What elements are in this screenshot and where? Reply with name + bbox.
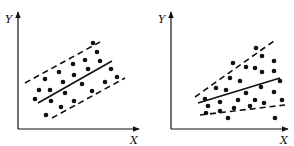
figure-canvas: Y X Y X bbox=[0, 0, 294, 146]
data-point bbox=[260, 54, 265, 59]
data-point bbox=[226, 116, 231, 121]
data-point bbox=[90, 89, 95, 94]
data-point bbox=[218, 100, 223, 105]
data-point bbox=[244, 91, 249, 96]
data-point bbox=[272, 90, 277, 95]
data-point bbox=[278, 79, 283, 84]
data-point bbox=[232, 106, 237, 111]
data-point bbox=[253, 98, 258, 103]
data-point bbox=[254, 46, 259, 51]
data-point bbox=[33, 97, 38, 102]
data-point bbox=[57, 70, 62, 75]
data-point bbox=[80, 82, 85, 87]
data-point bbox=[253, 66, 258, 71]
data-point bbox=[272, 69, 277, 74]
data-point bbox=[72, 73, 77, 78]
data-point bbox=[98, 59, 103, 64]
data-point bbox=[44, 113, 49, 118]
data-point bbox=[43, 77, 48, 82]
x-axis-label: X bbox=[279, 134, 289, 146]
data-point bbox=[259, 85, 264, 90]
data-points bbox=[33, 41, 120, 118]
data-point bbox=[231, 61, 236, 66]
data-point bbox=[206, 104, 211, 109]
data-point bbox=[280, 98, 285, 103]
data-point bbox=[236, 98, 241, 103]
data-point bbox=[224, 88, 229, 93]
data-point bbox=[260, 70, 265, 75]
data-point bbox=[262, 101, 267, 106]
data-point bbox=[272, 59, 277, 64]
data-point bbox=[83, 58, 88, 63]
data-point bbox=[86, 67, 91, 72]
data-point bbox=[228, 76, 233, 81]
data-point bbox=[61, 80, 66, 85]
fit-solid-line bbox=[38, 61, 112, 103]
data-point bbox=[218, 109, 223, 114]
data-point bbox=[214, 86, 219, 91]
data-point bbox=[49, 99, 54, 104]
data-point bbox=[59, 105, 64, 110]
upper-dashed-line bbox=[25, 42, 100, 83]
band-lines bbox=[25, 42, 125, 118]
data-point bbox=[63, 91, 68, 96]
data-point bbox=[203, 97, 208, 102]
data-point bbox=[109, 67, 114, 72]
y-axis-label: Y bbox=[5, 13, 14, 26]
y-axis-label: Y bbox=[158, 13, 167, 26]
data-point bbox=[48, 88, 53, 93]
data-point bbox=[273, 116, 278, 121]
data-point bbox=[244, 65, 249, 70]
lower-dashed-line bbox=[200, 105, 285, 115]
data-point bbox=[248, 104, 253, 109]
data-point bbox=[71, 62, 76, 67]
data-point bbox=[91, 41, 96, 46]
data-point bbox=[103, 80, 108, 85]
data-point bbox=[72, 99, 77, 104]
data-point bbox=[238, 79, 243, 84]
x-axis-label: X bbox=[129, 134, 139, 146]
right-panel: Y X bbox=[158, 12, 289, 146]
data-point bbox=[115, 75, 120, 80]
data-point bbox=[95, 50, 100, 55]
data-point bbox=[37, 88, 42, 93]
data-point bbox=[204, 111, 209, 116]
left-panel: Y X bbox=[5, 12, 139, 146]
